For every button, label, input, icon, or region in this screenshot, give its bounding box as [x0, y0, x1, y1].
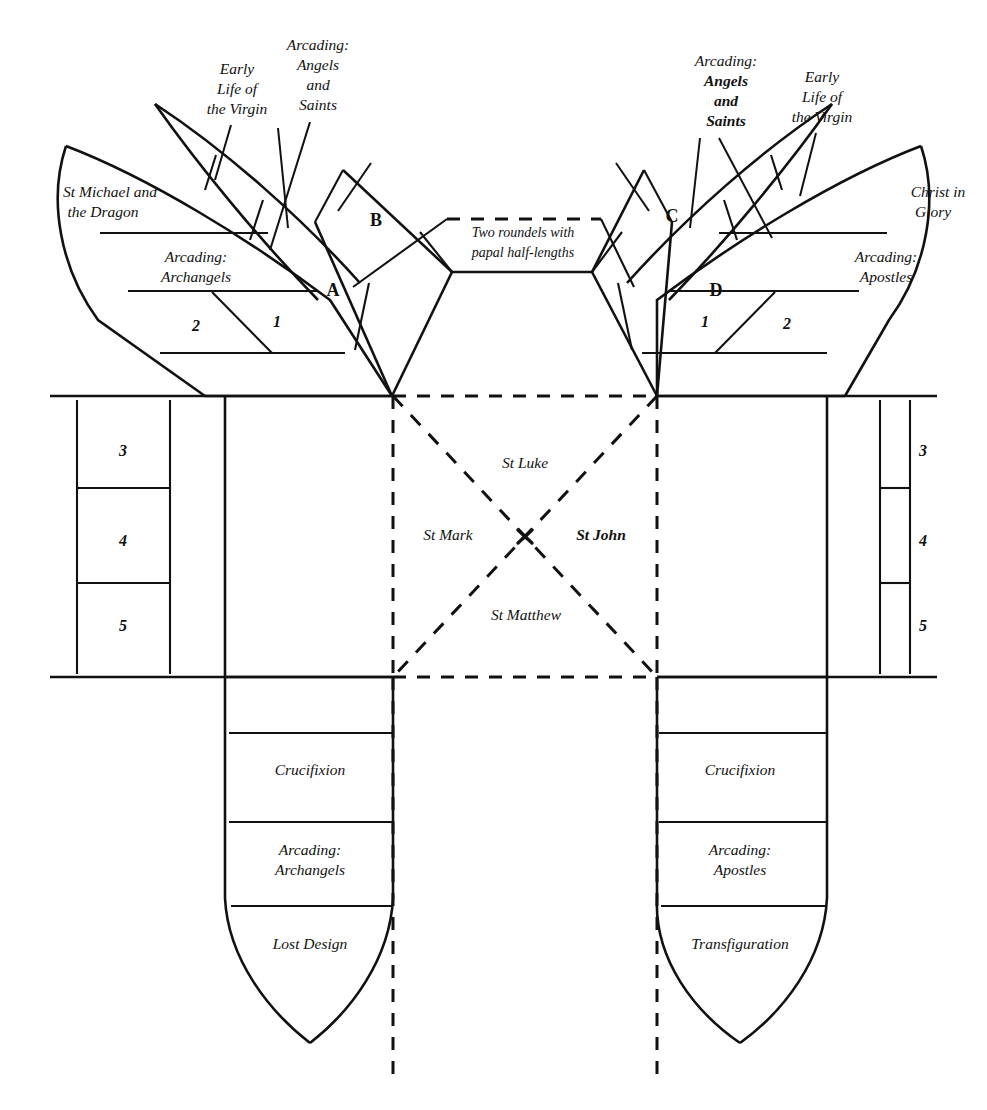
right-vault-cell-D: D	[710, 280, 723, 300]
right-wing-cell-1: 1	[701, 313, 709, 330]
right-callout-arcading-line2: Angels	[703, 72, 748, 89]
left-callout-sliver-leader	[278, 128, 288, 228]
right-wall-cell-5: 5	[919, 617, 927, 634]
right-vault-outer-edge	[592, 170, 644, 272]
right-apse-band2-line2: Apostles	[713, 861, 767, 878]
left-apse-band2-line2: Archangels	[274, 861, 345, 878]
evangelist-label-south: St Matthew	[491, 606, 562, 623]
right-callout-virgin-line2: Life of	[801, 88, 845, 105]
left-wing-arcading-line1: Arcading:	[164, 248, 227, 265]
left-wall-cell-5: 5	[119, 617, 127, 634]
right-apse-band2-line1: Arcading:	[708, 841, 771, 858]
evangelist-label-north: St Luke	[502, 454, 548, 471]
right-callout-arcading-line4: Saints	[706, 112, 746, 129]
left-callout-arcading-line1: Arcading:	[286, 36, 349, 53]
left-apse-band3-label: Lost Design	[272, 935, 348, 952]
left-wing-cell-2: 2	[191, 317, 200, 334]
left-wing-apse-label-line1: St Michael and	[63, 183, 157, 200]
left-callout-virgin-leader	[215, 125, 231, 180]
left-wall-cell-4: 4	[118, 532, 127, 549]
left-wing-apse-label-line2: the Dragon	[67, 203, 138, 220]
right-vault-rib-d-lower	[618, 283, 632, 350]
right-apse-band3-label: Transfiguration	[691, 935, 789, 952]
right-vault-lower-left-edge	[592, 272, 657, 396]
left-vault-rib-corner	[420, 232, 452, 272]
left-wing-rib-2-1	[212, 292, 272, 353]
evangelist-label-east: St John	[576, 526, 626, 543]
right-wing-apse-label-line2: Glory	[915, 203, 951, 220]
right-wall-cell-4: 4	[918, 532, 927, 549]
left-wing-group: B A 2 1 St Michael and the Dragon Arcadi…	[58, 36, 452, 396]
right-wing-cell-2: 2	[782, 315, 791, 332]
left-vault-cell-B: B	[370, 210, 382, 230]
left-apse-band1-label: Crucifixion	[275, 761, 346, 778]
right-vault-cell-C: C	[666, 206, 679, 226]
right-callout-arcading-line1: Arcading:	[694, 52, 757, 69]
right-wing-arcading-line2: Apostles	[859, 268, 913, 285]
right-wall-group: 3 4 5	[657, 396, 937, 677]
left-vault-top-edge	[315, 170, 343, 222]
left-callout-arcading-line4: Saints	[299, 96, 337, 113]
lower-axis-dashed	[393, 677, 657, 1075]
left-callout-arcading-line2: Angels	[296, 56, 339, 73]
left-wing-arcading-line2: Archangels	[160, 268, 231, 285]
left-callout-virgin-line1: Early	[219, 60, 255, 77]
right-apse-band1-label: Crucifixion	[705, 761, 776, 778]
evangelist-label-west: St Mark	[423, 526, 474, 543]
left-callout-virgin-line3: the Virgin	[207, 100, 268, 117]
right-wall-cell-3: 3	[918, 442, 927, 459]
crossing-note-line1: Two roundels with	[472, 225, 575, 240]
left-callout-arcading-line3: and	[306, 76, 330, 93]
church-scheme-svg: St Luke St Mark St John St Matthew Two r…	[0, 0, 987, 1110]
right-callout-virgin-line3: the Virgin	[792, 108, 853, 125]
left-wing-cell-1: 1	[273, 313, 281, 330]
right-wing-apse-label-line1: Christ in	[911, 183, 966, 200]
left-callout-virgin-line2: Life of	[216, 80, 260, 97]
diagram-canvas: St Luke St Mark St John St Matthew Two r…	[0, 0, 987, 1110]
left-vault-lower-right-edge	[392, 272, 452, 396]
right-wing-rib-1-2	[715, 292, 775, 353]
right-wing-arcading-line1: Arcading:	[854, 248, 917, 265]
left-apse-band2-line1: Arcading:	[278, 841, 341, 858]
left-wall-cell-3: 3	[118, 442, 127, 459]
right-wing-group: C D 1 2 Christ in Glory Arcading: Apostl…	[592, 52, 966, 396]
left-vault-outer-edge	[343, 170, 452, 272]
right-apse-group: Crucifixion Arcading: Apostles Transfigu…	[657, 677, 827, 1043]
left-apse-group: Crucifixion Arcading: Archangels Lost De…	[225, 677, 393, 1043]
left-vault-cell-A: A	[327, 280, 340, 300]
left-vault-inner-edge	[315, 222, 392, 396]
right-callout-virgin-line1: Early	[804, 68, 840, 85]
left-callout-arcading-leader	[270, 122, 310, 250]
crossing-centre-marker	[518, 530, 532, 543]
crossing-note-line2: papal half-lengths	[471, 245, 575, 260]
left-wall-group: 3 4 5	[50, 396, 393, 677]
right-callout-arcading-line3: and	[714, 92, 738, 109]
